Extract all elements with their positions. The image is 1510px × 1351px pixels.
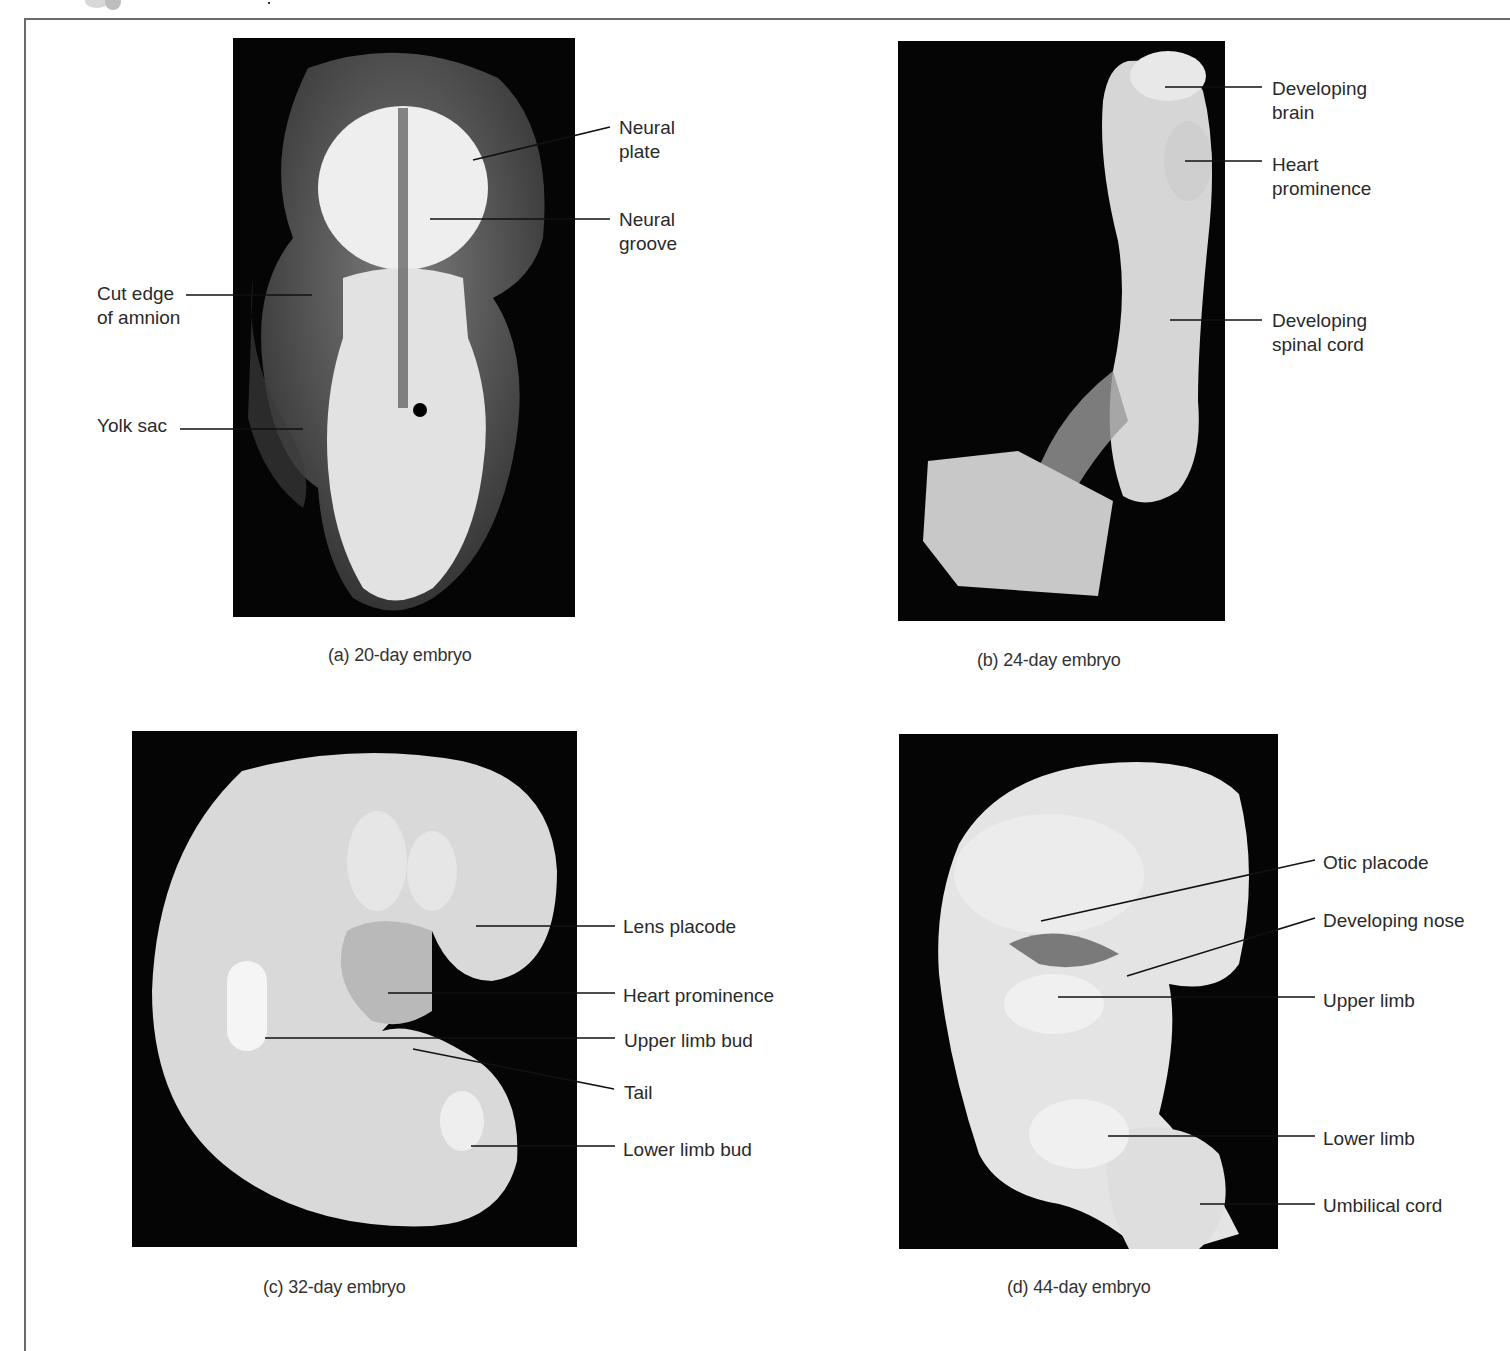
label-heart-prominence-c: Heart prominence <box>623 984 774 1008</box>
label-lower-limb: Lower limb <box>1323 1127 1415 1151</box>
caption-d: (d) 44-day embryo <box>1007 1277 1151 1298</box>
label-neural-plate: Neural plate <box>619 116 675 164</box>
embryo-c-illustration <box>132 731 577 1247</box>
page-corner-mark <box>45 0 125 10</box>
figure-frame-top <box>24 18 1510 20</box>
label-upper-limb: Upper limb <box>1323 989 1415 1013</box>
label-yolk-sac: Yolk sac <box>97 414 167 438</box>
caption-b: (b) 24-day embryo <box>977 650 1121 671</box>
label-developing-nose: Developing nose <box>1323 909 1465 933</box>
caption-a: (a) 20-day embryo <box>328 645 472 666</box>
page-dot <box>268 2 270 4</box>
label-heart-prominence-b: Heart prominence <box>1272 153 1371 201</box>
label-upper-limb-bud: Upper limb bud <box>624 1029 753 1053</box>
embryo-d-illustration <box>899 734 1278 1249</box>
label-tail: Tail <box>624 1081 653 1105</box>
label-developing-spinal-cord: Developing spinal cord <box>1272 309 1367 357</box>
label-developing-brain: Developing brain <box>1272 77 1367 125</box>
caption-c: (c) 32-day embryo <box>263 1277 406 1298</box>
photo-32-day-embryo <box>132 731 577 1247</box>
label-lens-placode: Lens placode <box>623 915 736 939</box>
label-umbilical-cord: Umbilical cord <box>1323 1194 1442 1218</box>
photo-20-day-embryo <box>233 38 575 617</box>
photo-24-day-embryo <box>898 41 1225 621</box>
embryo-b-illustration <box>898 41 1225 621</box>
figure-frame-left <box>24 18 26 1351</box>
label-lower-limb-bud: Lower limb bud <box>623 1138 752 1162</box>
label-otic-placode: Otic placode <box>1323 851 1429 875</box>
label-neural-groove: Neural groove <box>619 208 677 256</box>
label-cut-edge-amnion: Cut edge of amnion <box>97 282 180 330</box>
photo-44-day-embryo <box>899 734 1278 1249</box>
embryo-a-illustration <box>233 38 575 617</box>
